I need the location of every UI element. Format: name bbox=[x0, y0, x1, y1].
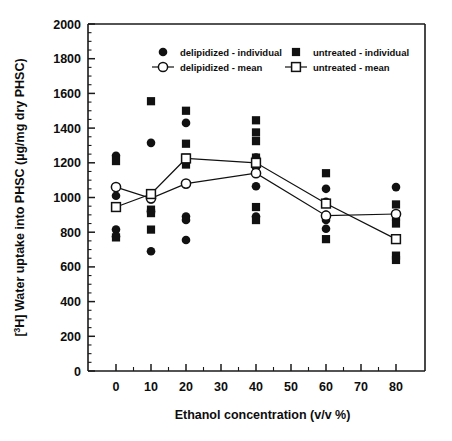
data-point-individual bbox=[112, 191, 121, 200]
y-tick-label: 1600 bbox=[53, 87, 81, 101]
y-axis-title: [3H] Water uptake into PHSC (µg/mg dry P… bbox=[12, 58, 27, 336]
legend-item: untreated - mean bbox=[285, 62, 390, 73]
data-point-mean bbox=[181, 179, 190, 188]
data-point-individual bbox=[147, 209, 155, 217]
data-point-individual bbox=[252, 216, 260, 224]
data-point-individual bbox=[322, 235, 330, 243]
data-point-individual bbox=[182, 216, 191, 225]
data-point-individual bbox=[147, 247, 156, 256]
y-tick-label: 2000 bbox=[53, 18, 81, 32]
x-tick-label: 40 bbox=[249, 380, 263, 394]
data-point-individual bbox=[392, 256, 400, 264]
x-tick-label: 70 bbox=[354, 380, 368, 394]
x-tick-label: 20 bbox=[179, 380, 193, 394]
legend-label: delipidized - mean bbox=[180, 62, 263, 73]
x-axis-title: Ethanol concentration (v/v %) bbox=[175, 408, 351, 422]
y-tick-label: 1800 bbox=[53, 52, 81, 66]
legend-item: untreated - individual bbox=[292, 47, 409, 58]
data-point-individual bbox=[182, 107, 190, 115]
data-point-individual bbox=[252, 128, 260, 136]
scatter-plot: 0200400600800100012001400160018002000010… bbox=[0, 0, 452, 441]
legend-item: delipidized - mean bbox=[152, 62, 263, 73]
data-point-individual bbox=[182, 140, 190, 148]
data-point-mean bbox=[391, 209, 400, 218]
x-tick-label: 80 bbox=[389, 380, 403, 394]
y-tick-label: 400 bbox=[60, 295, 81, 309]
legend-marker-open-circle bbox=[158, 62, 167, 71]
chart-legend: delipidized - individualuntreated - indi… bbox=[152, 47, 409, 73]
x-tick-label: 50 bbox=[284, 380, 298, 394]
legend-marker-open-square bbox=[292, 63, 301, 72]
y-tick-label: 1400 bbox=[53, 122, 81, 136]
data-point-mean bbox=[392, 235, 401, 244]
y-tick-label: 200 bbox=[60, 330, 81, 344]
legend-label: untreated - mean bbox=[313, 62, 390, 73]
data-point-individual bbox=[182, 236, 191, 245]
x-tick-label: 10 bbox=[144, 380, 158, 394]
axis-tick-labels: 0200400600800100012001400160018002000010… bbox=[53, 18, 403, 395]
data-point-mean bbox=[322, 199, 331, 208]
x-tick-label: 0 bbox=[113, 380, 120, 394]
data-point-mean bbox=[321, 211, 330, 220]
data-point-mean bbox=[147, 190, 156, 199]
data-point-individual bbox=[147, 225, 155, 233]
data-point-individual bbox=[322, 169, 330, 177]
axis-titles: Ethanol concentration (v/v %)[3H] Water … bbox=[12, 58, 350, 422]
data-point-individual bbox=[392, 200, 400, 208]
legend-marker-filled-circle bbox=[159, 48, 168, 57]
y-tick-label: 1200 bbox=[53, 156, 81, 170]
data-point-individual bbox=[392, 219, 400, 227]
legend-item: delipidized - individual bbox=[159, 47, 282, 58]
data-point-mean bbox=[252, 158, 261, 167]
data-point-individual bbox=[252, 203, 260, 211]
data-point-mean bbox=[112, 203, 121, 212]
data-point-individual bbox=[182, 119, 191, 128]
figure-container: 0200400600800100012001400160018002000010… bbox=[0, 0, 452, 441]
plot-axes bbox=[88, 24, 425, 371]
data-point-individual bbox=[252, 137, 260, 145]
data-point-mean bbox=[111, 182, 120, 191]
data-point-individual bbox=[252, 182, 261, 191]
y-tick-label: 0 bbox=[74, 365, 81, 379]
data-point-individual bbox=[392, 183, 401, 192]
data-point-individual bbox=[147, 139, 156, 148]
legend-label: untreated - individual bbox=[313, 47, 409, 58]
data-point-mean bbox=[182, 154, 191, 163]
data-point-individual bbox=[252, 116, 260, 124]
data-point-individual bbox=[147, 97, 155, 105]
y-tick-label: 1000 bbox=[53, 191, 81, 205]
axis-ticks bbox=[88, 24, 396, 371]
data-point-individual bbox=[112, 233, 120, 241]
data-point-mean bbox=[251, 169, 260, 178]
y-tick-label: 800 bbox=[60, 226, 81, 240]
x-tick-label: 60 bbox=[319, 380, 333, 394]
y-tick-label: 600 bbox=[60, 260, 81, 274]
data-point-individual bbox=[322, 185, 331, 194]
legend-label: delipidized - individual bbox=[180, 47, 282, 58]
legend-marker-filled-square bbox=[292, 48, 300, 56]
data-point-individual bbox=[322, 224, 331, 233]
data-points bbox=[111, 97, 400, 264]
data-point-individual bbox=[112, 157, 120, 165]
x-tick-label: 30 bbox=[214, 380, 228, 394]
